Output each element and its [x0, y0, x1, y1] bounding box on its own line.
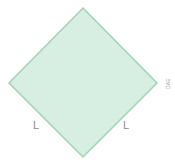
- diamond-square: [9, 8, 157, 157]
- side-label-left: L: [33, 120, 39, 131]
- diamond-figure: [0, 0, 175, 165]
- vertex-tag: DAE: [165, 78, 171, 89]
- side-label-right: L: [123, 120, 129, 131]
